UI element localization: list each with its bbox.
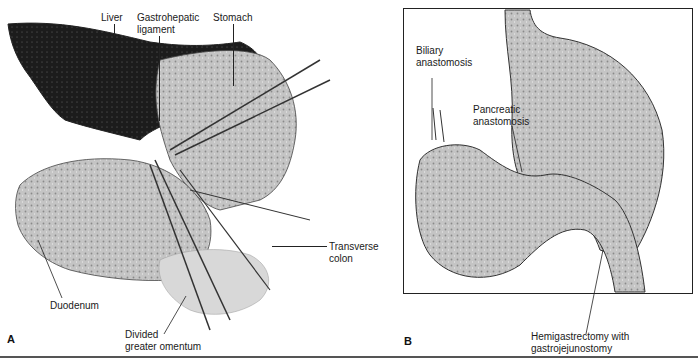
label-hemigastrectomy-line2: gastrojejunostomy: [531, 343, 612, 354]
leader-transverse-colon: [272, 246, 327, 247]
label-omentum-line1: Divided: [125, 329, 158, 340]
label-pancreatic-line2: anastomosis: [473, 116, 529, 127]
label-transverse-line2: colon: [329, 253, 353, 264]
label-hemigastrectomy-line1: Hemigastrectomy with: [531, 331, 629, 342]
leader-stomach: [233, 24, 234, 86]
label-duodenum: Duodenum: [50, 300, 99, 311]
panel-letter-b: B: [404, 335, 412, 347]
label-liver: Liver: [101, 12, 123, 23]
label-omentum-line2: greater omentum: [125, 341, 201, 352]
panel-b-frame: [403, 8, 693, 294]
bottom-rule: [0, 356, 698, 358]
panel-a-artwork: [8, 23, 330, 330]
leader-liver: [114, 24, 115, 36]
label-gastrohepatic-line2: ligament: [137, 24, 175, 35]
label-stomach: Stomach: [213, 12, 252, 23]
panel-letter-a: A: [7, 333, 15, 345]
label-transverse-line1: Transverse: [329, 241, 379, 252]
label-biliary-line1: Biliary: [416, 45, 443, 56]
leader-gastrohepatic: [159, 36, 160, 121]
label-gastrohepatic-line1: Gastrohepatic: [137, 12, 199, 23]
label-pancreatic-line1: Pancreatic: [473, 104, 520, 115]
label-biliary-line2: anastomosis: [416, 57, 472, 68]
